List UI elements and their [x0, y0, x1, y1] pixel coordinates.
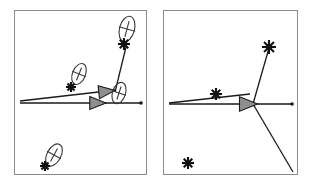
star-lower-left	[182, 157, 194, 169]
panel-right-frame	[164, 11, 298, 175]
star-upper-core	[266, 44, 272, 50]
star-middle-core	[69, 85, 73, 89]
star-upper	[262, 40, 276, 54]
star-bottom-left	[40, 161, 50, 171]
star-middle	[66, 82, 76, 92]
main-horizontal-vector-endpoint-dot	[290, 102, 294, 106]
star-middle-core	[213, 91, 218, 96]
star-middle	[210, 88, 222, 100]
star-top-right	[118, 38, 130, 50]
star-bottom-left-core	[43, 164, 47, 168]
figure-canvas	[0, 0, 311, 184]
star-top-right-core	[121, 41, 126, 46]
panel-left-frame	[15, 11, 147, 175]
main-horizontal-vector-endpoint-dot	[139, 101, 143, 105]
panel-right	[164, 11, 298, 175]
star-lower-left-core	[185, 160, 190, 165]
figure-root	[0, 0, 311, 184]
panel-left	[15, 11, 147, 175]
